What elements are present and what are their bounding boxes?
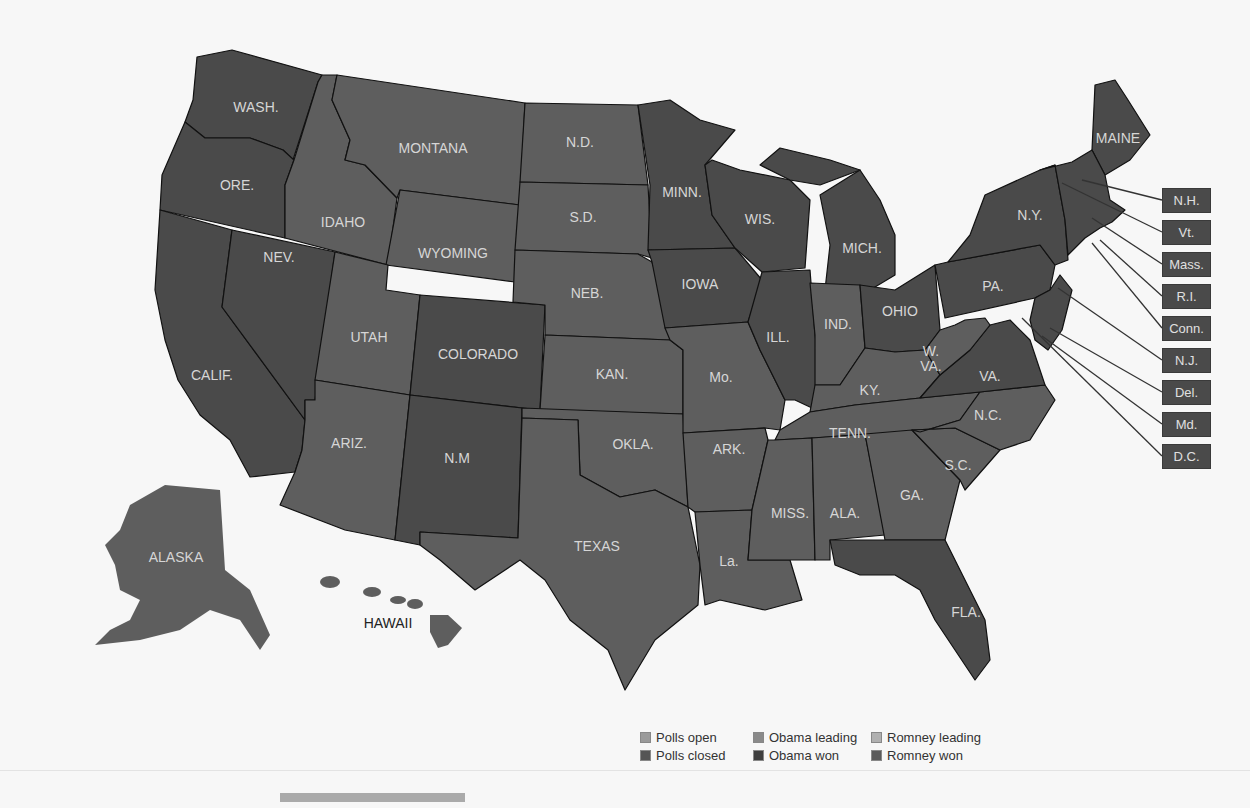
legend-item-polls-open: Polls open [640,730,745,745]
label-ill: ILL. [766,329,789,345]
label-ala: ALA. [830,505,860,521]
legend-item-romney-won: Romney won [871,748,991,763]
label-miss: MISS. [771,505,809,521]
label-ark: ARK. [713,441,746,457]
label-okla: OKLA. [612,436,653,452]
callout-line-ri [1100,240,1162,296]
legend-item-polls-closed: Polls closed [640,748,745,763]
label-alaska: ALASKA [149,549,204,565]
label-nm: N.M [444,450,470,466]
label-calif: CALIF. [191,367,233,383]
callout-line-conn [1092,243,1162,328]
legend-item-obama-leading: Obama leading [753,730,863,745]
state-new-mexico [395,395,522,545]
label-kan: KAN. [596,366,629,382]
map-legend: Polls open Obama leading Romney leading … [640,730,991,763]
label-wva-1: W. [923,343,939,359]
legend-swatch-icon [640,750,651,761]
label-wis: WIS. [745,211,775,227]
state-maine [1092,80,1150,175]
callout-new-hampshire: N.H. [1162,188,1211,213]
label-nev: NEV. [263,249,294,265]
callout-line-md [1042,336,1162,424]
callout-rhode-island: R.I. [1162,284,1211,309]
label-ind: IND. [824,316,852,332]
callout-vermont: Vt. [1162,220,1211,245]
legend-swatch-icon [871,750,882,761]
state-alaska [95,485,270,650]
label-ky: KY. [860,382,881,398]
callout-delaware: Del. [1162,380,1211,405]
label-ariz: ARIZ. [331,435,367,451]
label-mich: MICH. [842,240,882,256]
divider [0,770,1250,771]
legend-item-romney-leading: Romney leading [871,730,991,745]
callout-line-mass [1092,218,1162,264]
label-maine: MAINE [1096,130,1140,146]
callout-line-nj [1058,288,1162,360]
label-la: La. [719,553,738,569]
state-hawaii-island-1 [320,576,340,588]
caption-bar [280,793,465,802]
label-iowa: IOWA [682,276,719,292]
callout-new-jersey: N.J. [1162,348,1211,373]
label-sc: S.C. [944,457,971,473]
us-election-map: WASH. ORE. CALIF. NEV. IDAHO MONTANA WYO… [0,0,1250,808]
label-wva-2: VA. [920,358,942,374]
label-fla: FLA. [951,604,981,620]
label-texas: TEXAS [574,538,620,554]
state-hawaii-big-island [430,615,462,648]
legend-swatch-icon [753,732,764,743]
legend-swatch-icon [871,732,882,743]
label-ohio: OHIO [882,303,918,319]
label-tenn: TENN. [829,425,871,441]
state-wyoming [386,190,520,282]
label-ore: ORE. [220,177,254,193]
label-sd: S.D. [569,209,596,225]
label-va: VA. [979,368,1001,384]
legend-swatch-icon [640,732,651,743]
label-pa: PA. [982,278,1004,294]
label-hawaii: HAWAII [364,615,413,631]
label-neb: NEB. [571,285,604,301]
label-nc: N.C. [974,407,1002,423]
callout-dc: D.C. [1162,444,1211,469]
label-nd: N.D. [566,134,594,150]
state-michigan [820,170,895,290]
state-new-york [948,165,1068,265]
state-hawaii-island-2 [363,587,381,597]
label-wash: WASH. [233,99,278,115]
callout-maryland: Md. [1162,412,1211,437]
label-wyoming: WYOMING [418,245,488,261]
legend-swatch-icon [753,750,764,761]
callout-massachusetts: Mass. [1162,252,1211,277]
label-colorado: COLORADO [438,346,518,362]
label-idaho: IDAHO [321,214,365,230]
state-hawaii-island-4 [407,599,423,609]
legend-item-obama-won: Obama won [753,748,863,763]
label-ga: GA. [900,487,924,503]
label-mo: Mo. [709,369,732,385]
state-hawaii-island-3 [390,596,406,604]
label-montana: MONTANA [399,140,469,156]
label-utah: UTAH [350,329,387,345]
callout-connecticut: Conn. [1162,316,1211,341]
label-minn: MINN. [662,184,702,200]
label-ny: N.Y. [1017,207,1042,223]
